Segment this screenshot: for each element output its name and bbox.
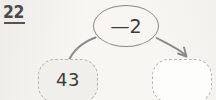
input-value-text: 43	[56, 69, 80, 90]
arrow-operator-to-output	[157, 38, 186, 55]
output-value-box[interactable]	[152, 59, 212, 100]
operator-label: —2	[93, 5, 159, 47]
worksheet-problem: 22 —2 43	[0, 0, 216, 100]
input-value-box[interactable]: 43	[38, 59, 98, 100]
